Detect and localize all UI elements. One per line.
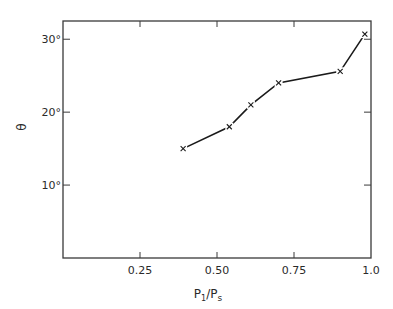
y-axis-ticks: 10°20°30° xyxy=(42,33,372,192)
plot-frame xyxy=(63,21,371,258)
x-tick-label: 1.0 xyxy=(362,264,380,277)
x-marker xyxy=(361,30,369,38)
line-chart: 0.250.500.751.0 10°20°30° θ P1/Ps xyxy=(0,0,393,309)
x-tick-label: 0.25 xyxy=(128,264,153,277)
x-axis-ticks: 0.250.500.751.0 xyxy=(128,21,380,277)
x-marker xyxy=(247,101,255,109)
plot-border xyxy=(63,21,371,258)
data-series xyxy=(179,30,369,152)
x-marker xyxy=(225,123,233,131)
x-marker xyxy=(179,145,187,153)
y-tick-label: 10° xyxy=(42,179,62,192)
x-tick-label: 0.50 xyxy=(205,264,230,277)
x-axis-label: P1/Ps xyxy=(194,287,223,303)
y-tick-label: 20° xyxy=(42,106,62,119)
x-marker xyxy=(275,79,283,87)
y-tick-label: 30° xyxy=(42,33,62,46)
x-marker xyxy=(336,67,344,75)
y-axis-label: θ xyxy=(15,123,29,130)
series-line xyxy=(183,34,365,148)
x-tick-label: 0.75 xyxy=(282,264,307,277)
